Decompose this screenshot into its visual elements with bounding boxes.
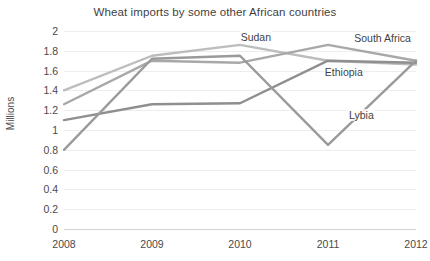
series-label: Lybia	[348, 109, 375, 121]
x-axis-tick-label: 2011	[317, 238, 340, 250]
y-axis-tick-label: 0.4	[43, 183, 58, 195]
y-axis-tick-label: 0.8	[43, 144, 58, 156]
x-axis-tick-label: 2009	[140, 238, 163, 250]
y-axis-tick-label: 1.2	[43, 104, 58, 116]
y-axis-tick-label: 1	[52, 124, 58, 136]
series-label: South Africa	[353, 32, 412, 44]
y-axis-tick-label: 0	[52, 223, 58, 235]
y-axis-tick-label: 0.2	[43, 203, 58, 215]
y-axis-tick-label: 0.6	[43, 164, 58, 176]
y-axis-tick-label: 1.4	[43, 84, 58, 96]
plot-area: 21.81.61.41.210.80.60.40.20 200820092010…	[64, 31, 416, 229]
y-axis-label: Millions	[5, 84, 16, 144]
series-lines	[64, 31, 416, 229]
x-axis-tick-label: 2012	[404, 238, 427, 250]
x-axis-tick-label: 2008	[52, 238, 75, 250]
series-label: Sudan	[240, 31, 272, 43]
x-axis-tick-label: 2010	[228, 238, 251, 250]
y-axis-tick-label: 1.6	[43, 65, 58, 77]
chart-title: Wheat imports by some other African coun…	[0, 6, 430, 18]
y-axis-tick-label: 2	[52, 25, 58, 37]
series-label: Ethiopia	[324, 66, 364, 78]
y-axis-tick-label: 1.8	[43, 45, 58, 57]
line-chart: Wheat imports by some other African coun…	[0, 0, 430, 261]
gridline	[64, 229, 416, 230]
